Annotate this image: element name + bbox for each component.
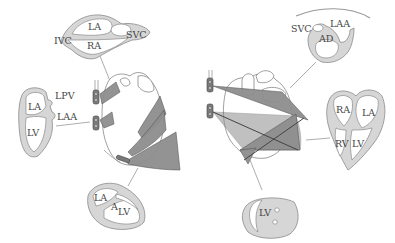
right-heart-illustration xyxy=(207,70,308,164)
probe-lower xyxy=(93,116,99,130)
label-svc-bicaval: SVC xyxy=(126,29,147,40)
label-la-2ch: LA xyxy=(28,101,41,112)
label-ad: AD xyxy=(318,33,334,44)
long-axis-view: LA A LV xyxy=(88,183,145,229)
probe-upper xyxy=(93,90,99,104)
label-lpv: LPV xyxy=(55,90,75,101)
probe-lower-right xyxy=(207,104,213,118)
bicaval-view: LA RA IVC SVC xyxy=(54,15,150,59)
label-ra-4ch: RA xyxy=(336,104,350,115)
tee-views-diagram: LA RA IVC SVC LA LV LPV LAA LA A LV xyxy=(0,0,395,243)
left-heart-illustration xyxy=(93,73,180,170)
label-lv-lax: LV xyxy=(118,206,130,217)
label-svc-sax: SVC xyxy=(291,23,312,34)
four-chamber-view: RA LA RV LV xyxy=(327,90,385,170)
label-lv-4ch: LV xyxy=(352,138,364,149)
label-laa-sax: LAA xyxy=(330,18,350,29)
label-laa-2ch: LAA xyxy=(57,111,77,122)
label-lv-tg: LV xyxy=(259,207,271,218)
label-ra-bicaval: RA xyxy=(87,40,101,51)
probe-upper-right xyxy=(207,78,213,92)
label-a: A xyxy=(110,201,118,212)
label-la-bicaval: LA xyxy=(88,21,101,32)
basal-short-axis-view: SVC LAA AD xyxy=(291,9,370,63)
label-ivc: IVC xyxy=(54,35,72,46)
label-la-4ch: LA xyxy=(362,107,375,118)
label-lv-2ch: LV xyxy=(27,127,39,138)
label-rv-4ch: RV xyxy=(335,138,349,149)
transgastric-short-axis-view: LV xyxy=(242,198,298,238)
label-la-lax: LA xyxy=(94,192,107,203)
two-chamber-view: LA LV LPV LAA xyxy=(19,88,77,157)
